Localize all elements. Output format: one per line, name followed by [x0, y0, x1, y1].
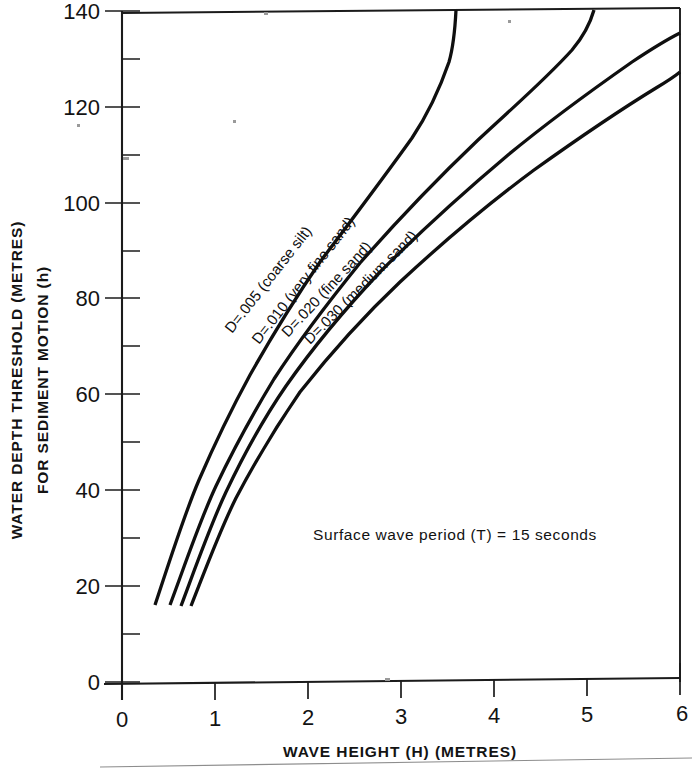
speck-3 — [264, 12, 268, 15]
frame-top — [122, 8, 680, 13]
chart-svg: 140 120 100 80 60 40 20 0 0 1 2 3 4 5 6 … — [0, 0, 692, 776]
y-ticklabel-140: 140 — [63, 0, 100, 24]
speck-4 — [508, 20, 511, 23]
plot-frame — [104, 8, 680, 700]
y-ticklabel-100: 100 — [63, 191, 100, 216]
x-axis-line — [104, 678, 680, 684]
speck-2 — [77, 124, 80, 127]
y-axis-title-line2: FOR SEDIMENT MOTION (h) — [34, 266, 51, 494]
y-axis-title-line1: WATER DEPTH THRESHOLD (METRES) — [8, 221, 25, 540]
figure-container: 140 120 100 80 60 40 20 0 0 1 2 3 4 5 6 … — [0, 0, 692, 776]
x-ticklabel-5: 5 — [581, 702, 593, 727]
x-ticklabel-4: 4 — [488, 703, 500, 728]
x-ticklabel-0: 0 — [116, 707, 128, 732]
x-ticklabel-3: 3 — [395, 704, 407, 729]
x-ticklabel-2: 2 — [302, 705, 314, 730]
y-ticklabel-80: 80 — [76, 286, 100, 311]
curve-very-fine-sand — [170, 10, 594, 605]
speck-1 — [123, 157, 129, 160]
y-ticklabel-40: 40 — [76, 478, 100, 503]
x-tick-labels: 0 1 2 3 4 5 6 — [116, 701, 688, 732]
y-ticklabel-60: 60 — [76, 382, 100, 407]
x-ticklabel-1: 1 — [209, 706, 221, 731]
y-ticklabel-120: 120 — [63, 95, 100, 120]
y-ticklabel-20: 20 — [76, 574, 100, 599]
curve-labels: D=.005 (coarse silt) D=.010 (very fine s… — [221, 213, 420, 347]
x-axis-title: WAVE HEIGHT (H) (METRES) — [283, 743, 517, 760]
speck-5 — [233, 120, 236, 123]
annotation-wave-period: Surface wave period (T) = 15 seconds — [313, 526, 597, 543]
y-ticklabel-0: 0 — [88, 670, 100, 695]
y-tick-labels: 140 120 100 80 60 40 20 0 — [63, 0, 100, 695]
x-axis-ticks — [122, 663, 680, 700]
speck-6 — [385, 678, 390, 681]
x-ticklabel-6: 6 — [676, 701, 688, 726]
